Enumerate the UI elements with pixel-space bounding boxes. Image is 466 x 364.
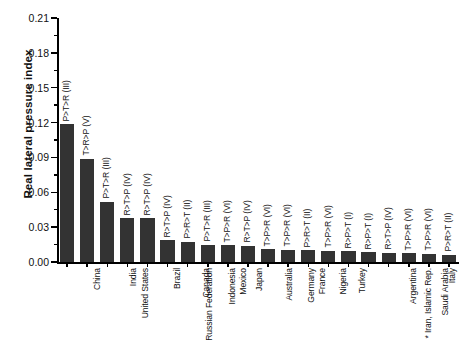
y-tick-minor — [54, 35, 58, 37]
x-tick — [167, 262, 169, 267]
x-axis-line — [57, 262, 459, 264]
x-tick — [187, 262, 189, 267]
y-tick-minor — [54, 244, 58, 246]
x-tick — [107, 262, 109, 267]
x-tick — [368, 262, 370, 267]
y-tick-minor — [54, 104, 58, 106]
x-category-label: Italy — [448, 268, 457, 283]
bar — [160, 240, 174, 262]
chart-container: Real lateral pressure index 0.000.030.06… — [0, 0, 466, 364]
bar — [382, 253, 396, 262]
y-tick-major — [51, 17, 57, 19]
bar-annotation: P>T>R (III) — [203, 200, 212, 241]
bar-annotation: P>R>T (II) — [445, 213, 454, 252]
bar — [181, 242, 195, 262]
y-tick-label: 0.03 — [29, 222, 49, 233]
x-tick — [348, 262, 350, 267]
bar — [60, 124, 74, 262]
x-category-label: Brazil — [173, 268, 182, 289]
y-tick-label: 0.21 — [29, 13, 49, 24]
y-tick-minor — [54, 209, 58, 211]
bar — [261, 249, 275, 262]
y-tick-label: 0.09 — [29, 152, 49, 163]
x-tick — [308, 262, 310, 267]
bar-annotation: P>R>T (II) — [304, 208, 313, 247]
x-tick — [66, 262, 68, 267]
bar-annotation: T>P>R (VI) — [404, 208, 413, 250]
bar — [341, 251, 355, 262]
bar-annotation: P>T>R (III) — [103, 157, 112, 198]
bar — [301, 250, 315, 262]
x-tick — [388, 262, 390, 267]
bar — [201, 245, 215, 262]
x-category-label: Germany — [307, 268, 316, 303]
bar-annotation: T>P>R (VI) — [284, 204, 293, 246]
x-tick — [448, 262, 450, 267]
y-tick-label: 0.18 — [29, 48, 49, 59]
plot-area: 0.000.030.060.090.120.150.180.21 P>T>R (… — [57, 18, 459, 262]
y-tick-major — [51, 87, 57, 89]
bar-annotation: R>T>P (IV) — [143, 173, 152, 215]
bar-annotation: T>R>P (V) — [83, 116, 92, 156]
y-tick-label: 0.06 — [29, 187, 49, 198]
x-tick — [247, 262, 249, 267]
x-tick — [328, 262, 330, 267]
x-category-label: Mexico — [239, 268, 248, 295]
bar — [140, 218, 154, 262]
x-category-label: France — [319, 268, 328, 294]
bar-annotation: R>T>P (IV) — [384, 207, 393, 249]
x-tick — [127, 262, 129, 267]
x-category-label: Turkey — [358, 268, 367, 293]
y-tick-label: 0.15 — [29, 82, 49, 93]
x-tick — [147, 262, 149, 267]
bar — [361, 252, 375, 262]
bar-annotation: P>R>T (II) — [183, 200, 192, 239]
bar-annotation: T>P>R (VI) — [264, 204, 273, 246]
y-tick-label: 0.12 — [29, 117, 49, 128]
y-tick-major — [51, 226, 57, 228]
y-tick-major — [51, 192, 57, 194]
bar — [80, 159, 94, 262]
y-tick-minor — [54, 70, 58, 72]
bar — [100, 202, 114, 262]
bar-annotation: R>P>T (I) — [344, 212, 353, 249]
y-tick-minor — [54, 139, 58, 141]
x-category-label: India — [130, 268, 139, 286]
x-category-label: China — [93, 268, 102, 290]
y-tick-major — [51, 157, 57, 159]
bar — [281, 250, 295, 262]
bar-annotation: T>P>R (VI) — [424, 208, 433, 250]
y-tick-major — [51, 122, 57, 124]
x-category-label: Argentina — [409, 268, 418, 304]
x-category-label: Japan — [255, 268, 264, 291]
x-category-label: Nigeria — [339, 268, 348, 295]
bar — [402, 253, 416, 262]
x-tick — [267, 262, 269, 267]
bar — [321, 251, 335, 262]
bar — [422, 254, 436, 262]
bar-annotation: P>T>R (III) — [63, 80, 72, 121]
bar — [120, 218, 134, 262]
x-tick — [287, 262, 289, 267]
x-category-label: Indonesia — [228, 268, 237, 304]
bar — [442, 255, 456, 262]
bar-annotation: R>P>T (I) — [364, 212, 373, 249]
x-tick — [428, 262, 430, 267]
x-category-label: * Iran, Islamic Rep. — [423, 268, 432, 339]
bar-annotation: R>T>P (IV) — [123, 173, 132, 215]
bar — [241, 246, 255, 262]
bar-annotation: R>T>P (IV) — [163, 195, 172, 237]
bar-annotation: R>T>P (IV) — [244, 200, 253, 242]
y-axis-line — [57, 18, 59, 262]
x-tick — [408, 262, 410, 267]
y-tick-major — [51, 52, 57, 54]
x-tick — [207, 262, 209, 267]
y-tick-minor — [54, 174, 58, 176]
y-tick-major — [51, 261, 57, 263]
x-tick — [86, 262, 88, 267]
y-tick-label: 0.00 — [29, 257, 49, 268]
bar-annotation: T>P>R (VI) — [223, 200, 232, 242]
x-category-label: United States — [142, 268, 151, 318]
bar — [221, 245, 235, 262]
x-tick — [227, 262, 229, 267]
